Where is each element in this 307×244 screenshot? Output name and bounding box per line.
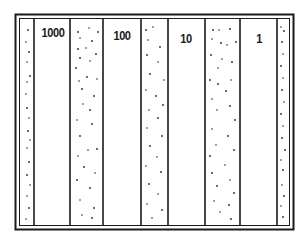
zone-label-100: 100 bbox=[109, 28, 135, 43]
zone-label-1000: 1000 bbox=[40, 25, 66, 40]
zone-label-1: 1 bbox=[246, 31, 272, 46]
column-dividers bbox=[34, 19, 277, 225]
stipple-zone-1 bbox=[25, 29, 31, 220]
stipple-zone-3 bbox=[145, 26, 165, 219]
stipple-zone-2 bbox=[75, 27, 99, 219]
stipple-zone-5 bbox=[280, 26, 286, 218]
outer-frame bbox=[16, 15, 294, 230]
stipple-zone-4 bbox=[209, 28, 237, 220]
zone-label-10: 10 bbox=[173, 31, 199, 46]
